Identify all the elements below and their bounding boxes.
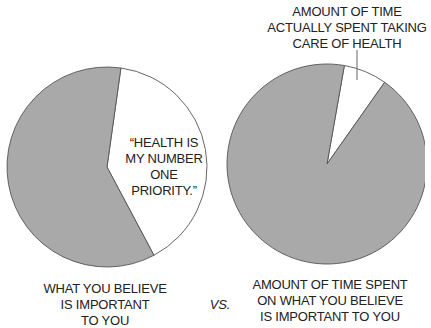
pie0-slice-label-health: “HEALTH IS MY NUMBER ONE PRIORITY.”	[118, 135, 210, 199]
pie-chart-time-spent	[227, 64, 425, 264]
pie1-caption: AMOUNT OF TIME SPENT ON WHAT YOU BELIEVE…	[240, 277, 420, 325]
pie1-callout-label: AMOUNT OF TIME ACTUALLY SPENT TAKING CAR…	[262, 4, 431, 52]
vs-label: VS.	[205, 297, 235, 313]
pie1-slice-other	[227, 64, 425, 264]
pie0-caption: WHAT YOU BELIEVE IS IMPORTANT TO YOU	[30, 281, 180, 328]
